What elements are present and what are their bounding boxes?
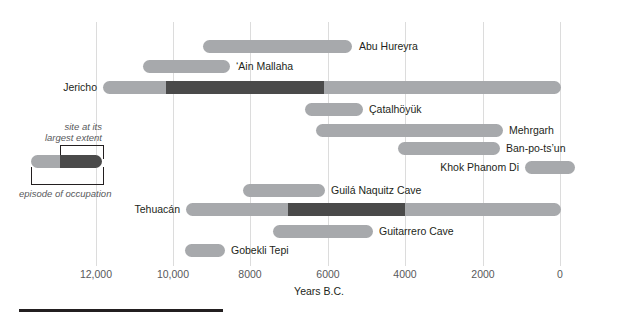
tick-label-12000: 12,000 — [80, 268, 112, 280]
tick-label-8000: 8000 — [238, 268, 261, 280]
legend-occupation-label: episode of occupation — [19, 188, 129, 199]
tick-label-0: 0 — [557, 268, 563, 280]
axis-title-x: Years B.C. — [0, 285, 638, 297]
legend-largest-extent-line2: largest extent — [20, 132, 102, 143]
legend-bracket-occupation — [31, 167, 104, 185]
tick-label-10000: 10,000 — [157, 268, 189, 280]
timeline-chart: Abu Hureyra ‘Ain Mallaha Jericho Çatalhö… — [0, 0, 638, 316]
tick-label-6000: 6000 — [316, 268, 339, 280]
footer-rule — [19, 309, 223, 312]
legend-largest-extent-line1: site at its — [20, 121, 102, 132]
tick-label-2000: 2000 — [471, 268, 494, 280]
plot-area: Abu Hureyra ‘Ain Mallaha Jericho Çatalhö… — [0, 0, 638, 316]
tick-label-4000: 4000 — [393, 268, 416, 280]
